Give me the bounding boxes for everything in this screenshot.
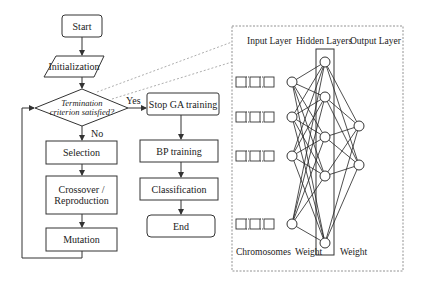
selection-label: Selection bbox=[46, 141, 117, 164]
zoom-guide-lines bbox=[97, 42, 232, 99]
crossover-line-2: Reproduction bbox=[54, 195, 108, 206]
input-node bbox=[287, 77, 297, 87]
chromosome-gene bbox=[236, 112, 246, 122]
stop-ga-label: Stop GA training bbox=[147, 93, 219, 115]
chromosomes-label: Chromosomes bbox=[236, 247, 291, 258]
weight-label-2: Weight bbox=[340, 247, 367, 258]
yes-label: Yes bbox=[126, 95, 141, 106]
network-container bbox=[232, 26, 403, 271]
input-node bbox=[287, 151, 297, 161]
mutation-label: Mutation bbox=[46, 228, 117, 251]
end-label: End bbox=[147, 215, 215, 237]
decision-line-2: criterion satisfied? bbox=[50, 108, 114, 118]
hidden-node bbox=[320, 92, 330, 102]
chromosome-gene bbox=[250, 77, 260, 87]
hidden-layers-label: Hidden Layers bbox=[296, 36, 352, 47]
chromosome-gene bbox=[250, 151, 260, 161]
chromosome-gene bbox=[264, 77, 274, 87]
hidden-node bbox=[320, 132, 330, 142]
chromosome-gene bbox=[250, 112, 260, 122]
chromosome-gene bbox=[236, 219, 246, 229]
chromosome-gene bbox=[250, 219, 260, 229]
crossover-line-1: Crossover / bbox=[59, 184, 105, 195]
chromosome-gene bbox=[264, 151, 274, 161]
crossover-label: Crossover / Reproduction bbox=[46, 176, 117, 214]
output-node bbox=[354, 160, 364, 170]
chromosome-gene bbox=[264, 219, 274, 229]
chromosome-gene bbox=[264, 112, 274, 122]
start-label: Start bbox=[62, 15, 102, 37]
classification-label: Classification bbox=[140, 178, 218, 200]
hidden-node bbox=[320, 57, 330, 67]
decision-label: Termination criterion satisfied? bbox=[40, 97, 124, 119]
hidden-node bbox=[320, 171, 330, 181]
output-node bbox=[354, 121, 364, 131]
input-node bbox=[287, 112, 297, 122]
chromosome-gene bbox=[236, 77, 246, 87]
weight-label-1: Weight bbox=[295, 247, 322, 258]
output-layer-label: Output Layer bbox=[350, 36, 401, 47]
network-connections bbox=[292, 62, 359, 243]
input-node bbox=[287, 219, 297, 229]
input-layer-label: Input Layer bbox=[247, 36, 292, 47]
initialization-label: Initialization bbox=[44, 56, 104, 77]
chromosome-cells bbox=[236, 77, 274, 229]
bp-training-label: BP training bbox=[140, 140, 218, 162]
chromosome-gene bbox=[236, 151, 246, 161]
no-label: No bbox=[91, 128, 103, 139]
